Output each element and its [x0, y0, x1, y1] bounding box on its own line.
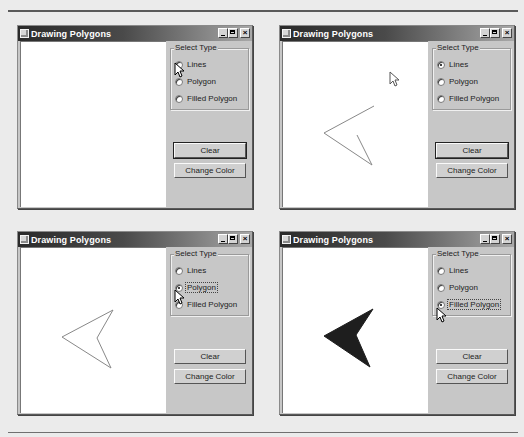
radio-button-icon[interactable] — [437, 301, 445, 309]
filled-polygon-drawing — [283, 248, 429, 414]
radio-polygon[interactable]: Polygon — [437, 282, 479, 293]
window-3: Drawing Polygons × Select Type Lines Pol… — [17, 231, 253, 415]
radio-lines[interactable]: Lines — [437, 59, 469, 70]
app-icon[interactable] — [20, 235, 29, 244]
radio-label[interactable]: Filled Polygon — [448, 94, 500, 103]
close-icon: × — [503, 235, 511, 243]
window-2: Drawing Polygons × Select Type Lines Pol… — [279, 25, 515, 209]
title-bar[interactable]: Drawing Polygons × — [18, 26, 252, 41]
minimize-button[interactable] — [218, 234, 228, 244]
radio-filled-polygon[interactable]: Filled Polygon — [437, 299, 500, 310]
radio-label[interactable]: Filled Polygon — [448, 300, 500, 309]
radio-button-icon[interactable] — [437, 61, 445, 69]
radio-label[interactable]: Filled Polygon — [186, 300, 238, 309]
select-type-group: Select Type Lines Polygon Filled Polygon — [432, 48, 511, 110]
radio-button-icon[interactable] — [437, 95, 445, 103]
select-type-group: Select Type Lines Polygon Filled Polygon — [432, 254, 511, 316]
minimize-icon — [483, 241, 487, 242]
radio-label[interactable]: Lines — [448, 266, 469, 275]
window-title: Drawing Polygons — [293, 235, 373, 245]
close-icon: × — [241, 235, 249, 243]
clear-button[interactable]: Clear — [436, 143, 508, 158]
radio-label[interactable]: Polygon — [448, 283, 479, 292]
radio-button-icon[interactable] — [175, 267, 183, 275]
minimize-icon — [483, 35, 487, 36]
title-bar[interactable]: Drawing Polygons × — [280, 26, 514, 41]
drawing-canvas[interactable] — [282, 41, 428, 207]
maximize-icon — [230, 30, 235, 34]
radio-label[interactable]: Lines — [448, 60, 469, 69]
window-title: Drawing Polygons — [31, 235, 111, 245]
clear-button[interactable]: Clear — [174, 349, 246, 364]
maximize-icon — [230, 236, 235, 240]
radio-filled-polygon[interactable]: Filled Polygon — [175, 299, 238, 310]
maximize-button[interactable] — [490, 234, 500, 244]
radio-lines[interactable]: Lines — [175, 59, 207, 70]
maximize-button[interactable] — [228, 28, 238, 38]
title-bar[interactable]: Drawing Polygons × — [18, 232, 252, 247]
radio-label[interactable]: Polygon — [448, 77, 479, 86]
group-label: Select Type — [174, 43, 218, 52]
radio-button-icon[interactable] — [175, 95, 183, 103]
clear-button[interactable]: Clear — [174, 143, 246, 158]
radio-filled-polygon[interactable]: Filled Polygon — [175, 93, 238, 104]
radio-button-icon[interactable] — [175, 301, 183, 309]
group-label: Select Type — [174, 249, 218, 258]
radio-lines[interactable]: Lines — [175, 265, 207, 276]
maximize-icon — [492, 236, 497, 240]
radio-polygon[interactable]: Polygon — [175, 76, 217, 87]
minimize-icon — [221, 35, 225, 36]
frame-top-rule — [8, 10, 518, 12]
minimize-button[interactable] — [480, 234, 490, 244]
window-title: Drawing Polygons — [31, 29, 111, 39]
close-button[interactable]: × — [502, 28, 512, 38]
drawing-canvas[interactable] — [20, 41, 166, 207]
group-label: Select Type — [436, 43, 480, 52]
window-1: Drawing Polygons × Select Type Lines Pol… — [17, 25, 253, 209]
change-color-button[interactable]: Change Color — [174, 163, 246, 178]
maximize-button[interactable] — [228, 234, 238, 244]
clear-button[interactable]: Clear — [436, 349, 508, 364]
radio-polygon[interactable]: Polygon — [437, 76, 479, 87]
radio-label[interactable]: Lines — [186, 60, 207, 69]
close-button[interactable]: × — [502, 234, 512, 244]
window-title: Drawing Polygons — [293, 29, 373, 39]
window-4: Drawing Polygons × Select Type Lines Pol… — [279, 231, 515, 415]
app-icon[interactable] — [282, 29, 291, 38]
radio-filled-polygon[interactable]: Filled Polygon — [437, 93, 500, 104]
polygon-drawing — [21, 248, 167, 414]
radio-lines[interactable]: Lines — [437, 265, 469, 276]
radio-button-icon[interactable] — [437, 284, 445, 292]
change-color-button[interactable]: Change Color — [174, 369, 246, 384]
minimize-icon — [221, 241, 225, 242]
change-color-button[interactable]: Change Color — [436, 369, 508, 384]
radio-button-icon[interactable] — [175, 78, 183, 86]
close-icon: × — [241, 29, 249, 37]
radio-label[interactable]: Lines — [186, 266, 207, 275]
close-button[interactable]: × — [240, 234, 250, 244]
app-icon[interactable] — [282, 235, 291, 244]
radio-label[interactable]: Filled Polygon — [186, 94, 238, 103]
radio-polygon[interactable]: Polygon — [175, 282, 217, 293]
drawing-canvas[interactable] — [20, 247, 166, 413]
radio-label[interactable]: Polygon — [186, 77, 217, 86]
minimize-button[interactable] — [480, 28, 490, 38]
polyline-drawing — [283, 42, 429, 208]
radio-label[interactable]: Polygon — [186, 283, 217, 292]
drawing-canvas[interactable] — [282, 247, 428, 413]
title-bar[interactable]: Drawing Polygons × — [280, 232, 514, 247]
group-label: Select Type — [436, 249, 480, 258]
maximize-icon — [492, 30, 497, 34]
select-type-group: Select Type Lines Polygon Filled Polygon — [170, 254, 249, 316]
minimize-button[interactable] — [218, 28, 228, 38]
app-icon[interactable] — [20, 29, 29, 38]
radio-button-icon[interactable] — [437, 267, 445, 275]
close-icon: × — [503, 29, 511, 37]
frame-bottom-rule — [8, 432, 518, 433]
radio-button-icon[interactable] — [437, 78, 445, 86]
close-button[interactable]: × — [240, 28, 250, 38]
radio-button-icon[interactable] — [175, 284, 183, 292]
change-color-button[interactable]: Change Color — [436, 163, 508, 178]
maximize-button[interactable] — [490, 28, 500, 38]
radio-button-icon[interactable] — [175, 61, 183, 69]
